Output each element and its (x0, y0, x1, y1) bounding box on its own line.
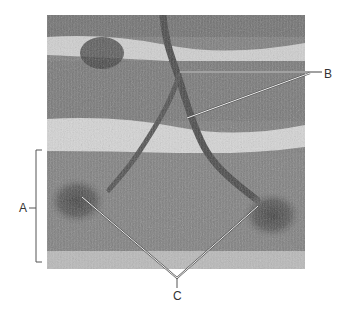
labeled-micrograph-figure: A B C (0, 0, 349, 325)
label-leader-lines (0, 0, 349, 325)
label-A: A (19, 202, 27, 214)
label-B: B (324, 68, 332, 80)
leader-lines-B (180, 72, 322, 118)
bracket-A (29, 150, 42, 262)
leader-lines-C (82, 197, 258, 288)
label-C: C (173, 290, 182, 302)
